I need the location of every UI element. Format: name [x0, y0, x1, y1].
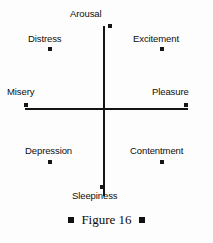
- data-point-excitement: [160, 47, 164, 51]
- arousal-sleepiness-axis: [103, 26, 105, 196]
- caption-square-right-icon: [139, 217, 145, 223]
- label-sleepiness: Sleepiness: [72, 190, 117, 201]
- label-misery: Misery: [7, 86, 34, 97]
- label-excitement: Excitement: [133, 33, 179, 44]
- data-point-misery: [24, 103, 28, 107]
- data-point-depression: [48, 160, 52, 164]
- data-point-arousal: [108, 24, 112, 28]
- caption-square-left-icon: [68, 217, 74, 223]
- label-depression: Depression: [25, 145, 72, 156]
- label-distress: Distress: [28, 33, 62, 44]
- label-pleasure: Pleasure: [152, 86, 189, 97]
- data-point-distress: [48, 47, 52, 51]
- misery-pleasure-axis: [25, 108, 188, 110]
- label-arousal: Arousal: [70, 8, 102, 19]
- circumplex-affect-figure: Arousal Excitement Distress Misery Pleas…: [0, 0, 213, 243]
- label-contentment: Contentment: [130, 145, 183, 156]
- data-point-pleasure: [184, 103, 188, 107]
- data-point-sleepiness: [100, 185, 104, 189]
- figure-caption: Figure 16: [0, 212, 213, 228]
- caption-text: Figure 16: [81, 212, 131, 228]
- data-point-contentment: [160, 160, 164, 164]
